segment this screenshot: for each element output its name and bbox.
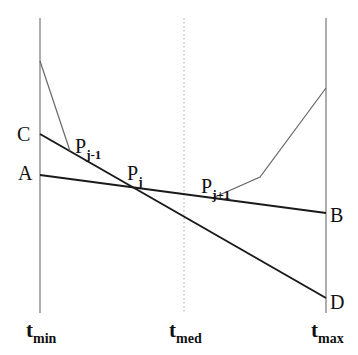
label-Pj-minus-1: Pj-1 (75, 136, 101, 161)
axis-label-tmin: tmin (26, 320, 56, 346)
label-A: A (18, 163, 32, 183)
label-D: D (330, 292, 344, 312)
axis-label-tmax-sub: max (318, 331, 344, 346)
label-Pj-plus-1-sub: j+1 (212, 187, 230, 202)
label-C: C (17, 124, 30, 144)
label-Pj-plus-1: Pj+1 (201, 176, 230, 201)
axis-label-tmed-base: t (169, 318, 176, 342)
right-curve (215, 88, 326, 197)
label-Pj-minus-1-sub: j-1 (86, 147, 101, 162)
axis-label-tmax: tmax (311, 320, 344, 346)
diagram-lines (0, 0, 358, 355)
axis-label-tmed-sub: med (176, 331, 202, 346)
axis-label-tmin-base: t (26, 318, 33, 342)
label-Pj-minus-1-base: P (75, 135, 86, 157)
label-Pj: Pj (127, 163, 142, 188)
label-Pj-base: P (127, 162, 138, 184)
axis-label-tmin-sub: min (33, 331, 56, 346)
diagram-canvas: C A B D Pj-1 Pj Pj+1 tmin tmed tmax (0, 0, 358, 355)
axis-label-tmed: tmed (169, 320, 202, 346)
axis-label-tmax-base: t (311, 318, 318, 342)
label-Pj-plus-1-base: P (201, 175, 212, 197)
label-B: B (330, 205, 343, 225)
label-Pj-sub: j (138, 174, 142, 189)
line-AB (40, 175, 326, 213)
